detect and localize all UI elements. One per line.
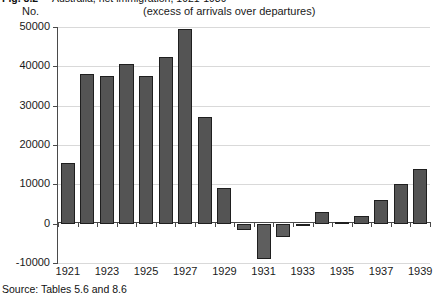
bar-1929 — [217, 188, 231, 223]
x-axis-tick — [97, 222, 98, 227]
bar-1926 — [159, 57, 173, 224]
x-axis-tick — [215, 222, 216, 227]
bar-1922 — [80, 74, 94, 223]
bar-1937 — [374, 200, 388, 224]
x-axis-tick — [156, 222, 157, 227]
x-axis-tick — [175, 222, 176, 227]
x-axis-tick — [78, 222, 79, 227]
bar-1927 — [178, 29, 192, 224]
y-axis-label: 40000 — [0, 59, 50, 71]
bar-1936 — [354, 216, 368, 224]
figure-title: Australia, net immigration, 1921-1939 — [52, 0, 227, 4]
x-axis-tick — [136, 222, 137, 227]
x-axis-tick — [391, 222, 392, 227]
y-axis-tick — [53, 27, 58, 28]
y-axis-tick — [53, 106, 58, 107]
x-axis-tick — [352, 222, 353, 227]
x-axis-tick — [234, 222, 235, 227]
x-axis-tick — [58, 222, 59, 227]
bar-1935 — [335, 222, 349, 224]
x-axis-label: 1931 — [242, 265, 286, 277]
y-axis-label: -10000 — [0, 256, 50, 268]
x-axis-tick — [254, 222, 255, 227]
x-axis-tick — [430, 222, 431, 227]
bar-1931 — [257, 224, 271, 259]
y-axis-label: 20000 — [0, 138, 50, 150]
gridline — [58, 263, 430, 264]
bar-1938 — [394, 184, 408, 223]
y-axis-unit-label: No. — [22, 5, 39, 17]
x-axis-label: 1933 — [281, 265, 325, 277]
chart-subtitle: (excess of arrivals over departures) — [143, 5, 315, 17]
x-axis-tick — [313, 222, 314, 227]
y-axis-tick — [53, 184, 58, 185]
x-axis-label: 1921 — [46, 265, 90, 277]
x-axis-label: 1935 — [320, 265, 364, 277]
y-axis-label: 30000 — [0, 99, 50, 111]
y-axis-tick — [53, 145, 58, 146]
bar-1934 — [315, 212, 329, 224]
bar-1921 — [61, 163, 75, 224]
bar-1923 — [100, 76, 114, 224]
bar-1933 — [296, 224, 310, 226]
x-axis-tick — [195, 222, 196, 227]
bar-1939 — [413, 169, 427, 224]
bar-1924 — [119, 64, 133, 223]
bar-1930 — [237, 224, 251, 230]
y-axis-tick — [53, 66, 58, 67]
bar-1932 — [276, 224, 290, 238]
y-axis-label: 10000 — [0, 177, 50, 189]
figure-number: Fig. 8.2 — [2, 0, 38, 4]
figure-container: Fig. 8.2 Australia, net immigration, 192… — [0, 0, 434, 295]
x-axis-label: 1937 — [359, 265, 403, 277]
x-axis-tick — [332, 222, 333, 227]
x-axis-label: 1929 — [202, 265, 246, 277]
x-axis-label: 1923 — [85, 265, 129, 277]
x-axis-tick — [410, 222, 411, 227]
x-axis-label: 1927 — [163, 265, 207, 277]
source-note: Source: Tables 5.6 and 8.6 — [2, 283, 127, 295]
gridline — [58, 66, 430, 67]
x-axis-label: 1925 — [124, 265, 168, 277]
x-axis-tick — [117, 222, 118, 227]
gridline — [58, 27, 430, 28]
y-axis-label: 0 — [0, 217, 50, 229]
x-axis-tick — [293, 222, 294, 227]
x-axis-tick — [273, 222, 274, 227]
x-axis-tick — [371, 222, 372, 227]
y-axis-tick — [53, 263, 58, 264]
x-axis-label: 1939 — [398, 265, 434, 277]
bar-1928 — [198, 117, 212, 223]
bar-1925 — [139, 76, 153, 224]
y-axis-label: 50000 — [0, 20, 50, 32]
